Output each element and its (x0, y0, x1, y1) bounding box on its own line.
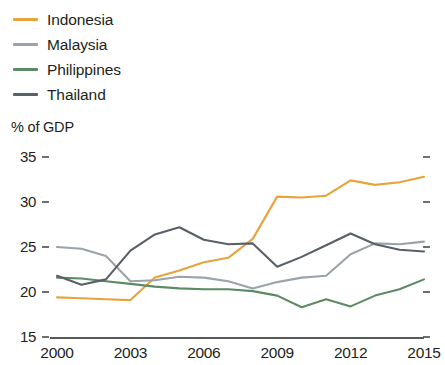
x-axis-tick-label: 2003 (104, 344, 156, 362)
y-axis-tick-mark-right (423, 291, 430, 293)
y-axis-tick-label: 20 (10, 283, 36, 300)
y-axis-tick-mark-right (423, 156, 430, 158)
y-axis-tick-mark (42, 246, 49, 248)
y-axis-tick-mark (42, 291, 49, 293)
series-line-thailand (57, 227, 424, 285)
y-axis-tick-label: 15 (10, 328, 36, 345)
x-axis-line (50, 337, 424, 339)
x-axis-tick-label: 2000 (31, 344, 83, 362)
y-axis-tick-mark (42, 156, 49, 158)
y-axis-tick-mark (42, 201, 49, 203)
x-axis-tick-label: 2015 (398, 344, 445, 362)
y-axis-tick-label: 35 (10, 148, 36, 165)
x-axis-tick-label: 2009 (251, 344, 303, 362)
y-axis-tick-mark-right (423, 201, 430, 203)
y-axis-tick-mark-right (423, 336, 430, 338)
y-axis-tick-mark (42, 336, 49, 338)
y-axis-tick-mark-right (423, 246, 430, 248)
y-axis-tick-label: 30 (10, 193, 36, 210)
x-axis-tick-label: 2012 (325, 344, 377, 362)
x-axis-tick-label: 2006 (178, 344, 230, 362)
y-axis-tick-label: 25 (10, 238, 36, 255)
series-line-philippines (57, 278, 424, 308)
